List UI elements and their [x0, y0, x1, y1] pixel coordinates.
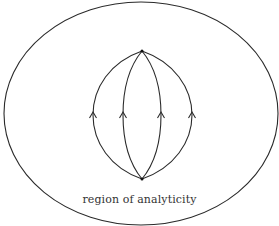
region-boundary	[4, 2, 278, 225]
contour-1	[93, 51, 142, 179]
vertex-bottom	[141, 178, 144, 181]
contour-3	[142, 51, 161, 179]
contour-2	[123, 51, 142, 179]
region-label: region of analyticity	[0, 193, 279, 206]
contour-4	[142, 51, 192, 179]
vertex-top	[141, 50, 144, 53]
